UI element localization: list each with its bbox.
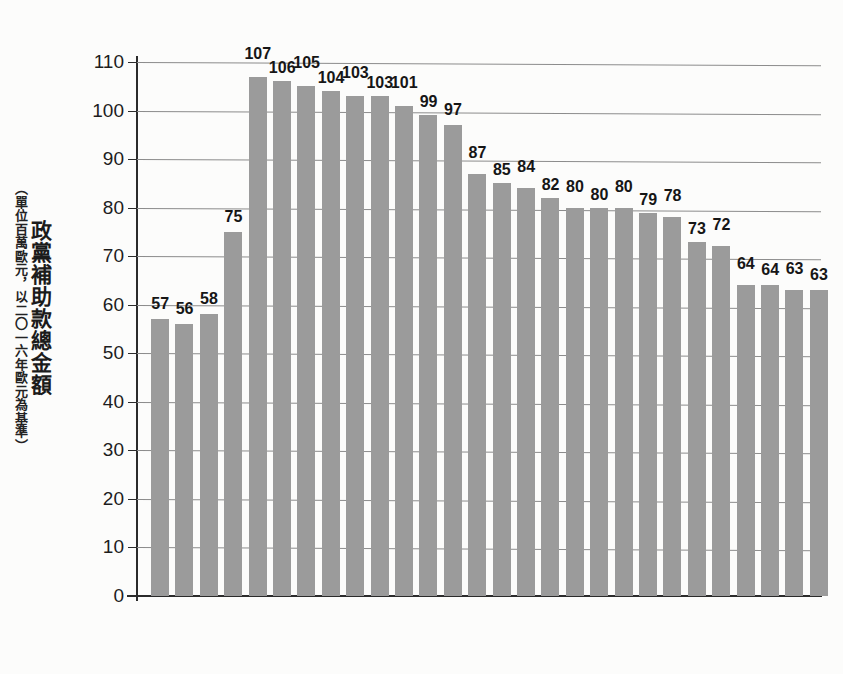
bar[interactable]	[444, 125, 462, 596]
bar-value-label: 85	[493, 161, 511, 179]
bar-value-label: 107	[244, 45, 271, 63]
bar[interactable]	[322, 91, 340, 596]
bar-value-label: 75	[224, 208, 242, 226]
y-axis-tick-mark	[128, 62, 137, 63]
bar-value-label: 63	[810, 266, 828, 284]
bar-value-label: 56	[176, 300, 194, 318]
bar-value-label: 80	[590, 186, 608, 204]
chart-title: 政黨補助款總金額	[29, 220, 50, 396]
y-axis-tick-mark	[128, 111, 137, 112]
bar[interactable]	[566, 208, 584, 596]
bar[interactable]	[273, 81, 291, 596]
bar-value-label: 103	[342, 64, 369, 82]
y-axis-tick-label: 70	[103, 245, 124, 267]
bar[interactable]	[493, 183, 511, 596]
bar[interactable]	[468, 174, 486, 596]
bar-value-label: 58	[200, 290, 218, 308]
bar-value-label: 105	[293, 54, 320, 72]
bar-value-label: 84	[517, 158, 535, 176]
bar[interactable]	[615, 208, 633, 596]
bar[interactable]	[785, 290, 803, 596]
bar-value-label: 80	[566, 178, 584, 196]
plot-area: 0102030405060708090100110 57199056199158…	[137, 62, 821, 596]
bar[interactable]	[151, 319, 169, 596]
bar-value-label: 64	[737, 255, 755, 273]
bar-value-label: 57	[151, 295, 169, 313]
bar[interactable]	[175, 324, 193, 596]
bar-value-label: 73	[688, 220, 706, 238]
y-axis-tick-label: 110	[94, 51, 124, 73]
bar[interactable]	[224, 232, 242, 596]
bar-value-label: 106	[269, 59, 296, 77]
bar[interactable]	[712, 246, 730, 596]
y-axis-tick-mark	[128, 208, 137, 209]
bar[interactable]	[663, 217, 681, 596]
y-axis-title-group: 政黨補助款總金額 （單位百萬歐元，以二〇一六年歐元為基準）	[14, 182, 50, 582]
bar-value-label: 103	[366, 74, 393, 92]
y-axis-tick-mark	[128, 450, 137, 451]
y-axis-tick-mark	[128, 305, 137, 306]
bar-value-label: 82	[542, 176, 560, 194]
chart-subtitle-units: （單位百萬歐元，以二〇一六年歐元為基準）	[14, 182, 27, 452]
bar[interactable]	[639, 213, 657, 597]
bar[interactable]	[688, 242, 706, 596]
y-axis-tick-label: 10	[103, 536, 124, 558]
y-axis-tick-label: 100	[92, 100, 124, 122]
bar[interactable]	[249, 77, 267, 596]
chart-container: 政黨補助款總金額 （單位百萬歐元，以二〇一六年歐元為基準） 0102030405…	[0, 0, 843, 674]
bar-value-label: 63	[786, 260, 804, 278]
y-axis-tick-mark	[128, 547, 137, 548]
bar-value-label: 87	[468, 144, 486, 162]
bar-value-label: 80	[615, 178, 633, 196]
y-axis-tick-label: 90	[103, 148, 124, 170]
bar[interactable]	[297, 86, 315, 596]
bar[interactable]	[517, 188, 535, 596]
bar-value-label: 99	[420, 93, 438, 111]
bar-value-label: 78	[664, 187, 682, 205]
bar-series: 5719905619915819927519931071994106199510…	[137, 62, 821, 596]
bar[interactable]	[346, 96, 364, 596]
bar-value-label: 97	[444, 101, 462, 119]
bar-value-label: 72	[712, 216, 730, 234]
bar[interactable]	[590, 208, 608, 596]
y-axis-tick-label: 60	[103, 294, 124, 316]
y-axis-tick-label: 20	[103, 488, 124, 510]
bar[interactable]	[761, 285, 779, 596]
bar[interactable]	[737, 285, 755, 596]
y-axis-tick-mark	[128, 596, 137, 597]
y-axis-tick-label: 50	[103, 342, 124, 364]
y-axis-tick-mark	[128, 499, 137, 500]
bar[interactable]	[371, 96, 389, 596]
bar[interactable]	[395, 106, 413, 596]
y-axis-tick-label: 0	[113, 585, 124, 607]
y-axis-tick-label: 30	[103, 439, 124, 461]
y-axis-tick-mark	[128, 402, 137, 403]
bar-value-label: 101	[391, 74, 418, 92]
bar[interactable]	[200, 314, 218, 596]
y-axis-tick-mark	[128, 159, 137, 160]
bar-value-label: 64	[761, 261, 779, 279]
y-axis-tick-label: 80	[103, 197, 124, 219]
y-axis-tick-mark	[128, 256, 137, 257]
y-axis-tick-label: 40	[103, 391, 124, 413]
y-axis-tick-mark	[128, 353, 137, 354]
bar-value-label: 79	[639, 191, 657, 209]
bar[interactable]	[541, 198, 559, 596]
bar[interactable]	[810, 290, 828, 596]
bar-value-label: 104	[318, 69, 345, 87]
bar[interactable]	[419, 115, 437, 596]
